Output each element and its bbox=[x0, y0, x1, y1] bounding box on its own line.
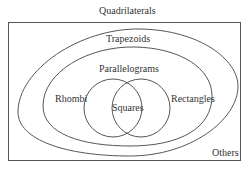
parallelograms-label: Parallelograms bbox=[99, 64, 159, 74]
rectangles-label: Rectangles bbox=[171, 94, 215, 104]
others-label: Others bbox=[212, 148, 239, 158]
trapezoids-label: Trapezoids bbox=[106, 34, 150, 44]
rhombi-label: Rhombi bbox=[55, 94, 87, 104]
squares-label: Squares bbox=[112, 103, 144, 113]
quadrilaterals-label: Quadrilaterals bbox=[99, 6, 156, 16]
